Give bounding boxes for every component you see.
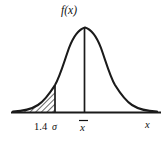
x-axis-label: x bbox=[144, 119, 150, 130]
mean-label: x bbox=[79, 121, 85, 133]
threshold-label-group: 1.4 σ bbox=[34, 121, 58, 132]
threshold-value-label: 1.4 bbox=[34, 121, 48, 132]
distribution-chart-canvas: f(x) 1.4 σ x x bbox=[0, 0, 167, 146]
mean-label-group: x bbox=[79, 121, 88, 134]
sigma-symbol-label: σ bbox=[52, 121, 58, 132]
normal-distribution-figure: f(x) 1.4 σ x x bbox=[0, 0, 167, 146]
fx-label: f(x) bbox=[61, 4, 77, 17]
